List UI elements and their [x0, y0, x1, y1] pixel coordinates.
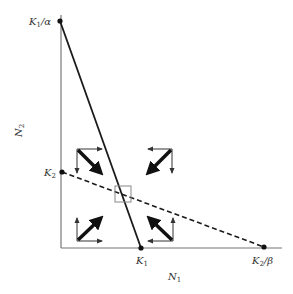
- point-k1: [138, 245, 143, 250]
- label-k1: K1: [135, 255, 148, 268]
- n1-isocline-solid: [60, 21, 141, 248]
- point-k2-over-beta: [261, 244, 266, 249]
- arrow-up-left-icon: [150, 219, 172, 240]
- point-k1-over-alpha: [57, 18, 62, 23]
- vector-group-upper-right: [148, 149, 172, 173]
- arrow-up-right-icon: [78, 219, 100, 240]
- label-k2: K2: [43, 167, 56, 180]
- phase-plane-diagram: K1/α K2 K1 K2/β N1 N2: [0, 0, 293, 294]
- vector-group-lower-left: [77, 218, 102, 241]
- arrow-down-right-icon: [78, 150, 100, 172]
- arrow-down-left-icon: [149, 150, 171, 172]
- x-axis-label: N1: [167, 271, 181, 284]
- vector-group-upper-left: [77, 149, 102, 173]
- n2-isocline-dashed: [62, 172, 264, 247]
- label-k2-over-beta: K2/β: [251, 255, 273, 268]
- label-k1-over-alpha: K1/α: [28, 16, 51, 29]
- point-k2: [59, 169, 64, 174]
- vector-group-lower-right: [148, 218, 173, 241]
- y-axis-label: N2: [13, 124, 26, 138]
